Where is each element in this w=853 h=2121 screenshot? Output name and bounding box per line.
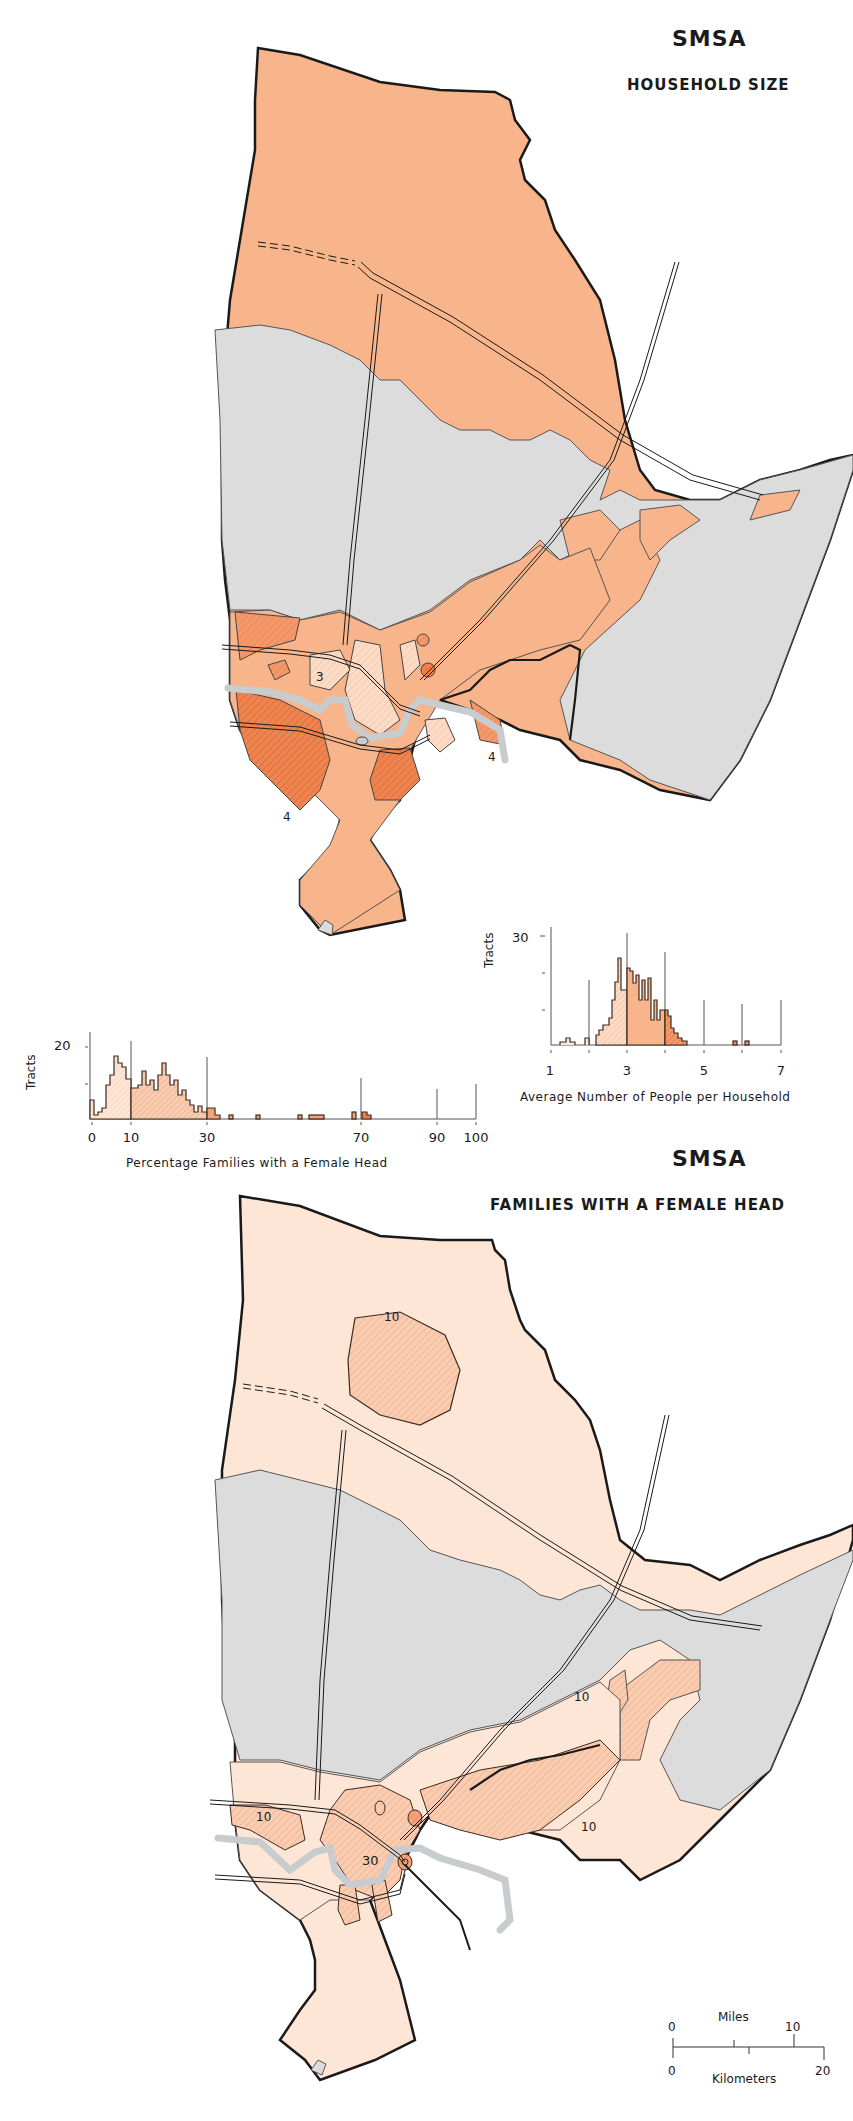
map2-contour-label-10-southeast: 10 bbox=[581, 1820, 596, 1834]
scale-km-0: 0 bbox=[668, 2064, 676, 2078]
chart1-xtick-3: 3 bbox=[623, 1063, 631, 1078]
scale-miles-10: 10 bbox=[785, 2020, 800, 2034]
chart1-xtick-7: 7 bbox=[777, 1063, 785, 1078]
scale-km-20: 20 bbox=[815, 2064, 830, 2078]
chart1-xtick-1: 1 bbox=[546, 1063, 554, 1078]
map2-title: SMSA bbox=[672, 1146, 747, 1171]
map2-no-data-area bbox=[215, 1470, 853, 1810]
chart2-xtick-100: 100 bbox=[464, 1130, 489, 1145]
scale-miles-label: Miles bbox=[718, 2010, 749, 2024]
chart2-xtick-70: 70 bbox=[353, 1130, 370, 1145]
map2-subtitle: FAMILIES WITH A FEMALE HEAD bbox=[490, 1196, 785, 1214]
chart2-ylabel: Tracts bbox=[24, 1055, 38, 1090]
chart2-xtick-90: 90 bbox=[429, 1130, 446, 1145]
map2-contour-label-10-north: 10 bbox=[384, 1310, 399, 1324]
chart2-ytick-20: 20 bbox=[54, 1038, 71, 1053]
map2-contour-label-10-west: 10 bbox=[256, 1810, 271, 1824]
chart1-xtick-5: 5 bbox=[700, 1063, 708, 1078]
map2-smsa-region bbox=[222, 1196, 853, 2080]
chart2-xlabel: Percentage Families with a Female Head bbox=[126, 1156, 388, 1170]
map2-highways bbox=[210, 1384, 762, 1904]
map1-contour-label-4-west: 4 bbox=[283, 810, 291, 824]
chart1-xlabel: Average Number of People per Household bbox=[520, 1090, 790, 1104]
map1-contour-label-4-east: 4 bbox=[488, 750, 496, 764]
map2-contour-label-10-east: 10 bbox=[574, 1690, 589, 1704]
chart2-xtick-0: 0 bbox=[88, 1130, 96, 1145]
map2-river bbox=[218, 1838, 510, 1930]
map1-household-size bbox=[0, 0, 853, 940]
chart1-ytick-30: 30 bbox=[512, 930, 529, 945]
chart1-ylabel: Tracts bbox=[482, 933, 496, 968]
chart2-xtick-10: 10 bbox=[123, 1130, 140, 1145]
map2-high-zone-core bbox=[320, 1785, 420, 1900]
map1-contour-label-3: 3 bbox=[316, 670, 324, 684]
chart2-xtick-30: 30 bbox=[199, 1130, 216, 1145]
scale-miles-0: 0 bbox=[668, 2020, 676, 2034]
scale-km-label: Kilometers bbox=[712, 2072, 776, 2086]
map2-contour-label-30: 30 bbox=[362, 1853, 379, 1868]
map2-high-zone-north bbox=[348, 1312, 460, 1425]
